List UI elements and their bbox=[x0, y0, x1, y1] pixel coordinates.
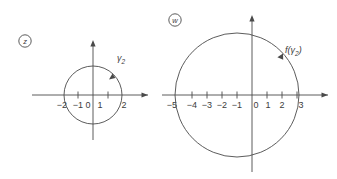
panel-w: w −5 −4 −3 −2 −1 0 1 2 3 f(γ2) bbox=[162, 14, 328, 172]
x-tick-label-z-neg1: −1 bbox=[73, 100, 83, 110]
orientation-arrow-f-gamma2 bbox=[277, 54, 283, 60]
x-tick-label-w-pos2: 2 bbox=[279, 100, 284, 110]
x-tick-label-w-zero: 0 bbox=[253, 100, 258, 110]
panel-tag-w: w bbox=[169, 14, 181, 26]
curve-label-f-gamma2-close: ) bbox=[298, 45, 302, 55]
curve-label-f-gamma2-main: f(γ bbox=[285, 45, 295, 55]
x-tick-label-w-neg4: −4 bbox=[187, 100, 197, 110]
x-axis-arrow-w bbox=[322, 92, 329, 97]
curve-label-f-gamma2: f(γ2) bbox=[285, 45, 302, 57]
orientation-arrow-gamma2 bbox=[109, 74, 115, 80]
x-tick-label-w-neg1: −1 bbox=[232, 100, 242, 110]
panel-z: z −2 −1 0 1 2 γ2 bbox=[19, 35, 148, 140]
panel-tag-w-label: w bbox=[172, 16, 178, 25]
x-tick-label-z-zero: 0 bbox=[85, 100, 90, 110]
curve-label-gamma2: γ2 bbox=[117, 53, 126, 65]
x-tick-label-w-neg2: −2 bbox=[217, 100, 227, 110]
x-axis-arrow-z bbox=[142, 92, 149, 97]
x-tick-label-w-pos3: 3 bbox=[298, 100, 303, 110]
panel-tag-z-label: z bbox=[22, 37, 27, 46]
panel-tag-z: z bbox=[19, 35, 31, 47]
x-tick-label-z-pos2: 2 bbox=[121, 100, 126, 110]
curve-label-gamma2-sub: 2 bbox=[121, 58, 126, 65]
x-tick-label-z-pos1: 1 bbox=[97, 100, 102, 110]
x-tick-label-w-neg3: −3 bbox=[202, 100, 212, 110]
complex-plane-figure: z −2 −1 0 1 2 γ2 w bbox=[0, 0, 337, 179]
x-tick-label-w-pos1: 1 bbox=[265, 100, 270, 110]
y-axis-arrow-w bbox=[249, 15, 254, 22]
y-axis-arrow-z bbox=[90, 40, 95, 47]
